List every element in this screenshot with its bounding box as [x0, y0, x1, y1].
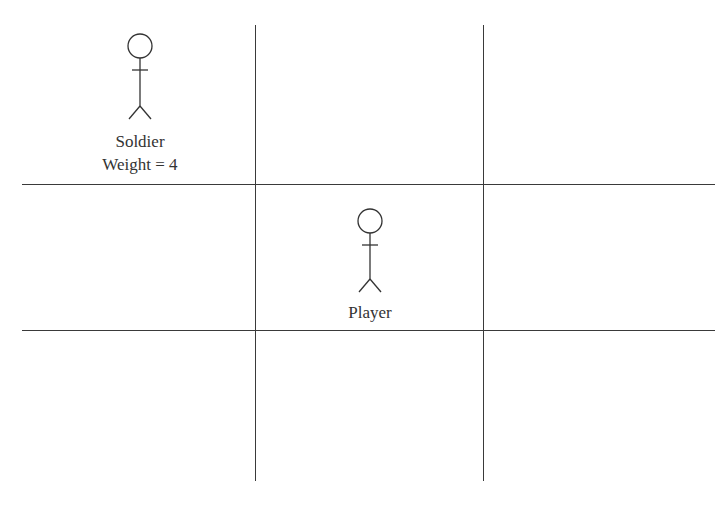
grid-line-horizontal-top — [22, 184, 715, 185]
grid-line-horizontal-bottom — [22, 330, 715, 331]
player-stick-figure-icon — [350, 207, 390, 297]
soldier-stick-figure-icon — [120, 32, 160, 122]
soldier-weight-label: Weight = 4 — [80, 154, 200, 175]
grid-line-vertical-right — [483, 25, 484, 481]
player-label: Player — [310, 302, 430, 323]
grid-line-vertical-left — [255, 25, 256, 481]
soldier-label: Soldier — [80, 131, 200, 152]
